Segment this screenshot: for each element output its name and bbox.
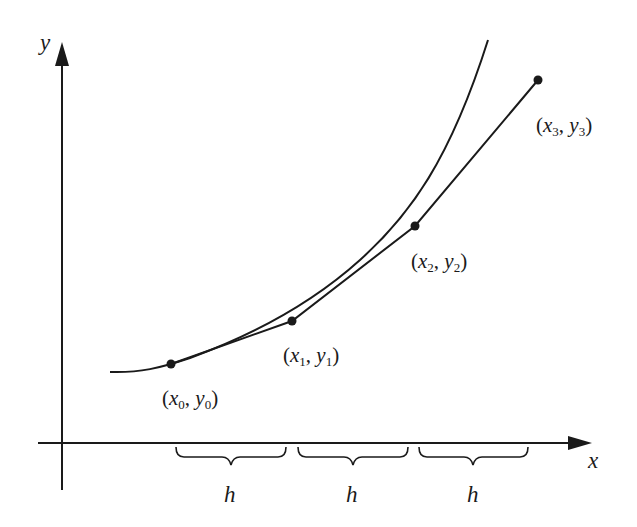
step-label-1: h — [224, 482, 236, 508]
diagram-canvas — [0, 0, 637, 527]
point-label-2: (x2, y2) — [411, 249, 467, 276]
y-axis-label: y — [40, 30, 50, 56]
point-label-1: (x1, y1) — [283, 343, 339, 370]
step-label-3: h — [467, 482, 479, 508]
step-label-2: h — [346, 482, 358, 508]
point-label-3: (x3, y3) — [536, 113, 592, 140]
point-marker-3 — [534, 76, 543, 85]
y-axis-arrowhead-icon — [55, 42, 69, 66]
point-label-0: (x0, y0) — [162, 386, 218, 413]
point-marker-0 — [167, 360, 176, 369]
point-marker-2 — [411, 222, 420, 231]
x-axis-label: x — [588, 448, 598, 474]
approximation-polyline — [171, 80, 538, 364]
step-brace-2 — [298, 447, 408, 465]
step-brace-3 — [419, 447, 528, 465]
point-marker-1 — [288, 317, 297, 326]
step-brace-1 — [176, 447, 286, 465]
